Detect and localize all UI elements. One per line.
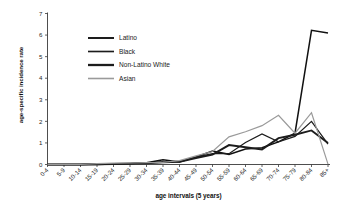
series-line-non-latino-white (48, 130, 329, 164)
x-tick-label: 30-34 (133, 166, 149, 182)
x-tick-label: 70-74 (265, 166, 281, 182)
legend-label: Black (119, 48, 136, 55)
y-tick-label: 7 (39, 10, 43, 17)
plot-area: 01234567 0-45-910-1415-1920-2425-2930-34… (0, 0, 340, 213)
x-tick-label: 25-29 (116, 166, 132, 182)
series-line-latino (48, 30, 329, 164)
y-tick-label: 2 (39, 118, 43, 125)
x-tick-label: 55-59 (215, 166, 231, 182)
x-tick-label: 40-44 (166, 166, 182, 182)
x-tick-label: 10-14 (67, 166, 83, 182)
y-tick-label: 5 (39, 53, 43, 60)
x-tick-label: 85+ (318, 166, 331, 179)
x-tick-label: 50-54 (199, 166, 215, 182)
x-tick-label: 75-79 (281, 166, 297, 182)
chart-legend: LatinoBlackNon-Latino WhiteAsian (88, 34, 170, 82)
incidence-rate-line-chart: age-specific incidence rate 01234567 0-4… (0, 0, 340, 213)
x-tick-label: 65-69 (248, 166, 264, 182)
data-series-group (48, 30, 329, 164)
legend-label: Asian (119, 75, 136, 82)
x-tick-label: 15-19 (83, 166, 99, 182)
x-axis-ticks: 0-45-910-1415-1920-2425-2930-3435-3940-4… (39, 165, 331, 183)
y-tick-label: 4 (39, 74, 43, 81)
y-tick-label: 3 (39, 96, 43, 103)
y-tick-label: 6 (39, 31, 43, 38)
x-tick-label: 60-64 (232, 166, 248, 182)
x-tick-label: 35-39 (149, 166, 165, 182)
legend-label: Non-Latino White (119, 61, 170, 68)
x-tick-label: 20-24 (100, 166, 116, 182)
x-axis-title: age intervals (5 years) (47, 192, 330, 199)
y-tick-label: 1 (39, 139, 43, 146)
legend-label: Latino (119, 34, 137, 41)
x-tick-label: 80-84 (298, 166, 314, 182)
x-tick-label: 45-49 (182, 166, 198, 182)
y-tick-label: 0 (39, 161, 43, 168)
y-axis-ticks: 01234567 (39, 10, 47, 168)
x-tick-label: 5-9 (55, 166, 67, 178)
